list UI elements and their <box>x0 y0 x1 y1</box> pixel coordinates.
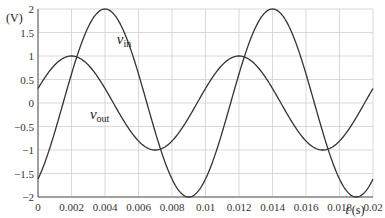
x-axis-ticks: 00.0020.0040.0060.0080.010.0120.0140.016… <box>35 201 382 213</box>
y-tick-label: 1.5 <box>20 27 34 39</box>
grid-lines <box>38 9 373 197</box>
label-v-in: vin <box>117 31 131 49</box>
y-tick-label: 2 <box>29 3 35 15</box>
x-tick-label: 0.006 <box>126 201 151 213</box>
x-tick-label: 0.016 <box>294 201 319 213</box>
series-labels: vinvout <box>90 31 131 124</box>
y-tick-label: 0 <box>29 97 35 109</box>
x-tick-label: 0.014 <box>260 201 285 213</box>
y-tick-label: −2 <box>22 191 34 203</box>
y-tick-label: 0.5 <box>20 74 34 86</box>
x-tick-label: 0.012 <box>227 201 252 213</box>
y-tick-label: 1 <box>29 50 35 62</box>
y-tick-label: −0.5 <box>14 121 34 133</box>
y-tick-label: −1.5 <box>14 168 34 180</box>
x-tick-label: 0.002 <box>59 201 84 213</box>
x-tick-label: 0 <box>35 201 41 213</box>
label-v-out: vout <box>90 106 110 124</box>
x-tick-label: 0.01 <box>196 201 215 213</box>
x-axis-label: t (s) <box>345 203 364 217</box>
y-axis-ticks: −2−1.5−1−0.500.511.52 <box>14 3 34 203</box>
chart: −2−1.5−1−0.500.511.52 00.0020.0040.0060.… <box>0 0 385 218</box>
y-tick-label: −1 <box>22 144 34 156</box>
x-tick-label: 0.008 <box>160 201 185 213</box>
x-tick-label: 0.004 <box>93 201 118 213</box>
y-axis-label: (V) <box>6 11 23 25</box>
x-tick-label: 0.02 <box>363 201 382 213</box>
